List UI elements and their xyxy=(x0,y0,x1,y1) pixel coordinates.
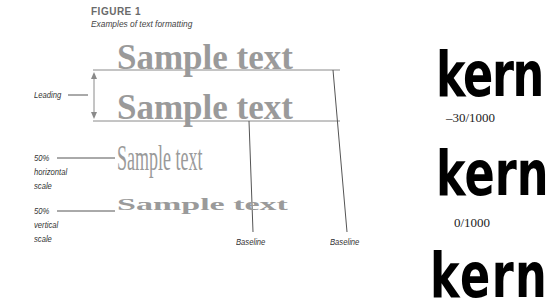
sample-text-vertical-scale: Sample text xyxy=(117,196,288,213)
baseline-pointer-right xyxy=(333,70,347,232)
vertical-scale-word2: scale xyxy=(34,232,58,246)
horizontal-scale-percent: 50% xyxy=(34,151,67,165)
kern-example-normal: kern xyxy=(436,143,549,205)
baseline-label-left: Baseline xyxy=(236,235,265,249)
sample-text-horizontal-scale: Sample text xyxy=(117,140,202,176)
horizontal-scale-label: 50% horizontal scale xyxy=(34,151,67,193)
baseline-pointer-left xyxy=(249,121,253,232)
vertical-scale-percent: 50% xyxy=(34,204,58,218)
leading-arrow-icon xyxy=(91,72,97,119)
horizontal-scale-word1: horizontal xyxy=(34,165,67,179)
kern-example-loose: kern xyxy=(430,245,548,302)
vertical-scale-label: 50% vertical scale xyxy=(34,204,58,246)
leading-label: Leading xyxy=(34,88,61,102)
vertical-scale-word1: vertical xyxy=(34,218,58,232)
kern-value-tight: –30/1000 xyxy=(446,110,495,126)
baseline-label-right: Baseline xyxy=(330,235,359,249)
horizontal-scale-word2: scale xyxy=(34,179,67,193)
sample-text-line-2: Sample text xyxy=(117,90,293,125)
sample-text-line-1: Sample text xyxy=(117,40,293,75)
kern-value-normal: 0/1000 xyxy=(454,215,490,231)
kern-example-tight: kern xyxy=(436,44,543,106)
